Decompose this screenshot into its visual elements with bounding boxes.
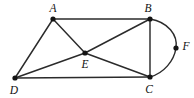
vertex-label-f: F (181, 40, 190, 52)
edge-c-d (15, 77, 150, 78)
graph-figure: A B C D E F (0, 0, 194, 98)
vertex-dot-c (147, 74, 152, 79)
edge-c-e (85, 53, 150, 77)
edge-b-e (85, 19, 150, 53)
vertex-group (12, 16, 178, 80)
vertex-label-a: A (48, 2, 57, 14)
vertex-dot-e (82, 50, 87, 55)
vertex-label-c: C (145, 83, 153, 95)
edge-d-e (15, 53, 85, 78)
vertex-label-b: B (144, 2, 151, 14)
edge-b-f-c-arc (150, 19, 176, 77)
vertex-dot-f (173, 45, 178, 50)
vertex-label-d: D (9, 84, 19, 96)
edge-group (15, 19, 176, 78)
edge-a-e (53, 19, 85, 53)
vertex-dot-d (12, 75, 17, 80)
vertex-label-e: E (80, 58, 88, 70)
edge-a-d (15, 19, 53, 78)
vertex-dot-b (147, 16, 152, 21)
graph-canvas: A B C D E F (0, 0, 194, 98)
vertex-dot-a (50, 16, 55, 21)
vertex-label-group: A B C D E F (9, 2, 191, 96)
